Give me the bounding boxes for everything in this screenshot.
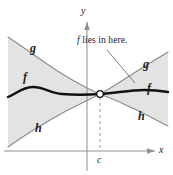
label-f-right: f (147, 82, 151, 94)
label-point-c: c (97, 155, 101, 165)
callout-text-rest: lies in here. (80, 35, 128, 45)
label-g-left: g (30, 42, 36, 54)
label-h-right: h (138, 110, 145, 122)
x-axis-arrowhead (147, 148, 155, 154)
callout-text: f lies in here. (77, 36, 128, 46)
label-y-axis: y (81, 6, 85, 16)
label-g-right: g (143, 58, 149, 70)
label-f-left: f (23, 71, 27, 83)
squeeze-theorem-figure: f lies in here. g f h g f h y x c (0, 0, 173, 175)
label-x-axis: x (159, 145, 163, 155)
open-circle-marker-at-c (97, 91, 104, 98)
callout-leader-line (107, 50, 135, 83)
label-h-left: h (35, 122, 42, 134)
y-axis-arrowhead (84, 22, 90, 30)
